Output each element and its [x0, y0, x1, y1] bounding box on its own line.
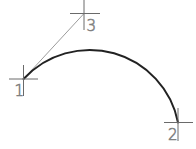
tangent-arc[interactable]: [24, 50, 179, 123]
point-label-3: 3: [87, 17, 97, 35]
point-label-1: 1: [15, 82, 25, 100]
drawing-canvas[interactable]: 1 3 2: [0, 0, 196, 149]
point-label-2: 2: [168, 126, 178, 144]
